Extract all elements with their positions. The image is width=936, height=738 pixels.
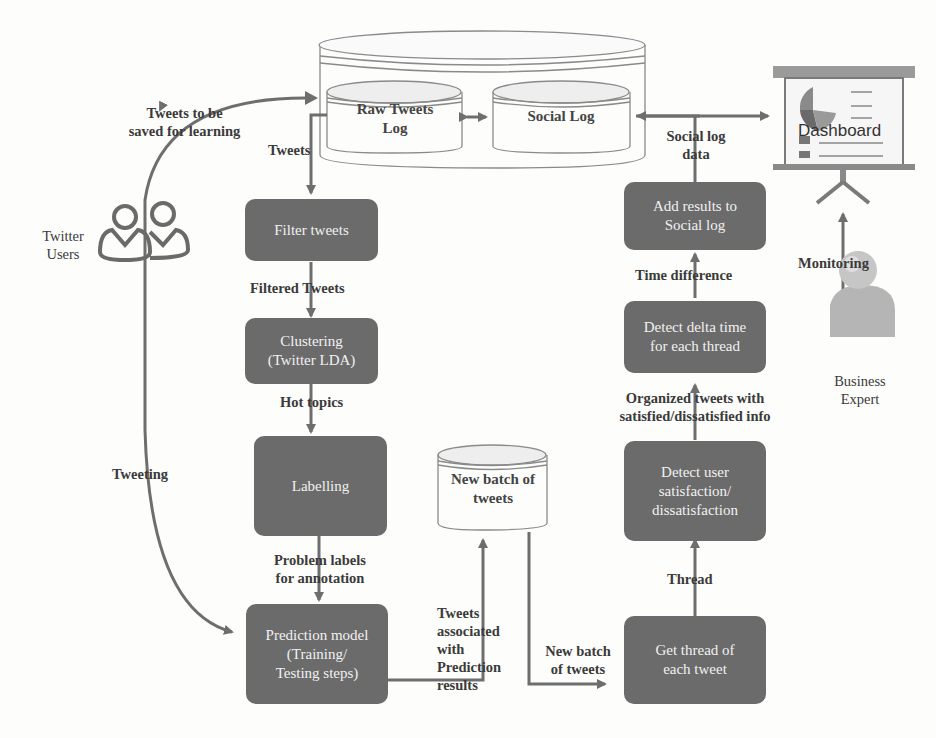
social-log-store: Social Log	[500, 107, 622, 126]
edge-label-organized-tweets: Organized tweets with satisfied/dissatis…	[595, 389, 795, 425]
new-batch-label-line1: New batch of	[438, 470, 548, 489]
prediction-model-box: Prediction model (Training/ Testing step…	[246, 604, 388, 704]
raw-tweets-log-label-line2: Log	[340, 119, 450, 138]
edge-label-tweets-saved-line2: saved for learning	[112, 122, 257, 140]
edge-label-thread: Thread	[667, 570, 713, 588]
new-batch-store: New batch of tweets	[438, 470, 548, 508]
twitter-users-label-line1: Twitter	[28, 227, 98, 245]
edge-label-hot-topics: Hot topics	[280, 393, 343, 411]
detect-satisfaction-label-line3: dissatisfaction	[652, 501, 738, 520]
raw-tweets-log-label-line1: Raw Tweets	[340, 100, 450, 119]
detect-satisfaction-box: Detect user satisfaction/ dissatisfactio…	[624, 441, 766, 541]
prediction-label-line3: Testing steps)	[276, 664, 359, 683]
detect-delta-time-box: Detect delta time for each thread	[624, 301, 766, 373]
edge-label-social-log-data-line2: data	[656, 145, 736, 163]
clustering-label-line2: (Twitter LDA)	[268, 351, 356, 370]
social-log-label: Social Log	[500, 107, 622, 126]
edge-label-tweets-associated-line2: associated	[437, 622, 501, 640]
edge-label-tweets-associated-line4: Prediction	[437, 658, 501, 676]
new-batch-label-line2: tweets	[438, 489, 548, 508]
business-expert-label-line2: Expert	[820, 390, 900, 408]
edge-label-organized-line2: satisfied/dissatisfied info	[595, 407, 795, 425]
clustering-label-line1: Clustering	[280, 332, 343, 351]
edge-label-tweets-associated-line3: with	[437, 640, 501, 658]
edge-label-tweets-associated: Tweets associated with Prediction result…	[437, 604, 501, 694]
filter-tweets-label: Filter tweets	[274, 221, 349, 240]
edge-label-tweets-saved: Tweets to be saved for learning	[112, 104, 257, 140]
business-expert-label-line1: Business	[820, 372, 900, 390]
edge-label-social-log-data-line1: Social log	[656, 127, 736, 145]
twitter-users-label-line2: Users	[28, 245, 98, 263]
add-results-label-line1: Add results to	[653, 197, 737, 216]
add-results-label-line2: Social log	[665, 216, 725, 235]
diagram-canvas: Raw Tweets Log Social Log New batch of t…	[0, 0, 936, 738]
add-results-box: Add results to Social log	[624, 182, 766, 250]
detect-delta-label-line1: Detect delta time	[644, 318, 746, 337]
edge-label-social-log-data: Social log data	[656, 127, 736, 163]
get-thread-label-line1: Get thread of	[655, 641, 734, 660]
detect-delta-label-line2: for each thread	[650, 337, 740, 356]
raw-tweets-log-store: Raw Tweets Log	[340, 100, 450, 138]
labelling-box: Labelling	[254, 436, 387, 536]
edge-label-tweets-associated-line5: results	[437, 676, 501, 694]
edge-label-organized-line1: Organized tweets with	[595, 389, 795, 407]
edge-label-time-difference: Time difference	[635, 266, 732, 284]
labelling-label: Labelling	[292, 477, 349, 496]
prediction-label-line2: (Training/	[287, 645, 347, 664]
edge-label-problem-labels-line2: for annotation	[260, 569, 380, 587]
clustering-box: Clustering (Twitter LDA)	[245, 318, 378, 384]
edge-label-filtered-tweets: Filtered Tweets	[250, 279, 345, 297]
edge-label-new-batch: New batch of tweets	[536, 642, 620, 678]
edge-label-new-batch-line1: New batch	[536, 642, 620, 660]
detect-satisfaction-label-line1: Detect user	[661, 463, 729, 482]
prediction-label-line1: Prediction model	[266, 626, 369, 645]
detect-satisfaction-label-line2: satisfaction/	[659, 482, 731, 501]
twitter-users-label: Twitter Users	[28, 227, 98, 263]
dashboard-label: Dashboard	[798, 121, 881, 141]
edge-label-tweets-saved-line1: Tweets to be	[112, 104, 257, 122]
edge-label-new-batch-line2: of tweets	[536, 660, 620, 678]
edge-label-problem-labels-line1: Problem labels	[260, 551, 380, 569]
get-thread-label-line2: each tweet	[663, 660, 727, 679]
filter-tweets-box: Filter tweets	[245, 199, 378, 261]
get-thread-box: Get thread of each tweet	[624, 616, 766, 704]
business-expert-label: Business Expert	[820, 372, 900, 408]
edge-label-monitoring: Monitoring	[798, 254, 869, 272]
edge-label-tweets: Tweets	[268, 141, 310, 159]
edge-label-problem-labels: Problem labels for annotation	[260, 551, 380, 587]
edge-label-tweeting: Tweeting	[112, 465, 168, 483]
edge-label-tweets-associated-line1: Tweets	[437, 604, 501, 622]
